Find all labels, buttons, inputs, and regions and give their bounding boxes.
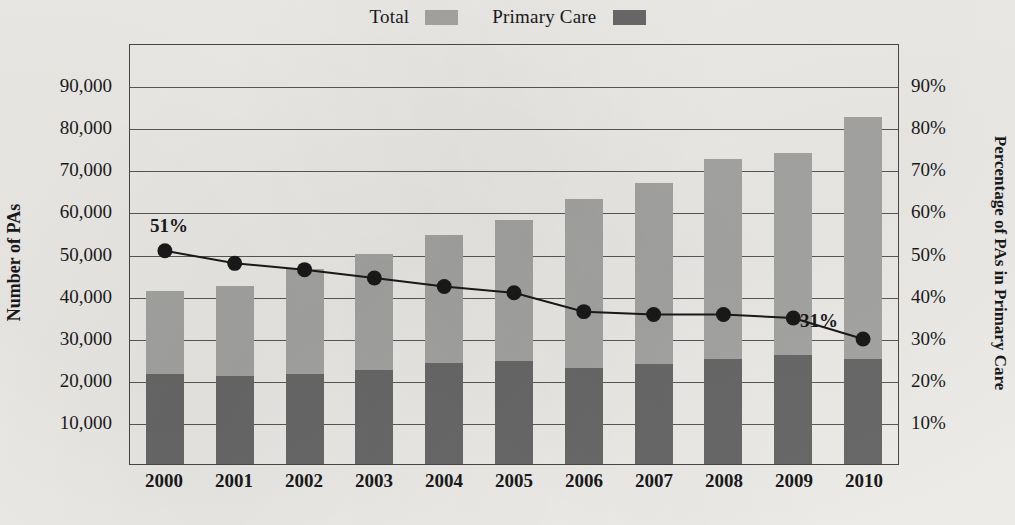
x-tick-label: 2007 bbox=[635, 470, 673, 492]
x-axis-tick-labels: 2000200120022003200420052006200720082009… bbox=[129, 470, 899, 492]
left-tick-label: 70,000 bbox=[60, 160, 112, 180]
legend-label-primary-care: Primary Care bbox=[492, 6, 596, 28]
left-tick-label: 10,000 bbox=[60, 413, 112, 433]
right-tick-label: 70% bbox=[911, 160, 946, 180]
data-point-label: 51% bbox=[150, 215, 188, 237]
right-axis-tick-labels: 90%80%70%60%50%40%30%20%10% bbox=[903, 44, 973, 465]
legend-swatch-primary-care-icon bbox=[613, 10, 646, 25]
legend-item-total: Total bbox=[369, 6, 458, 28]
right-tick-label: 50% bbox=[911, 245, 946, 265]
left-axis-title-text: Number of PAs bbox=[5, 204, 26, 321]
x-tick-label: 2002 bbox=[285, 470, 323, 492]
data-point-label: 31% bbox=[800, 310, 838, 332]
right-tick-label: 60% bbox=[911, 202, 946, 222]
x-tick-label: 2001 bbox=[215, 470, 253, 492]
right-axis-title: Percentage of PAs in Primary Care bbox=[983, 10, 1015, 515]
left-tick-label: 80,000 bbox=[60, 118, 112, 138]
right-tick-label: 40% bbox=[911, 287, 946, 307]
line-data-point[interactable] bbox=[227, 256, 242, 271]
x-tick-label: 2009 bbox=[775, 470, 813, 492]
x-tick-label: 2006 bbox=[565, 470, 603, 492]
left-tick-label: 20,000 bbox=[60, 371, 112, 391]
left-tick-label: 60,000 bbox=[60, 202, 112, 222]
line-data-point[interactable] bbox=[856, 331, 871, 346]
line-data-point[interactable] bbox=[157, 243, 172, 258]
line-data-point[interactable] bbox=[507, 285, 522, 300]
left-tick-label: 40,000 bbox=[60, 287, 112, 307]
right-axis-title-text: Percentage of PAs in Primary Care bbox=[990, 135, 1010, 389]
line-series-layer bbox=[130, 45, 898, 465]
legend-label-total: Total bbox=[369, 6, 409, 28]
line-data-point[interactable] bbox=[437, 279, 452, 294]
x-tick-label: 2003 bbox=[355, 470, 393, 492]
line-data-point[interactable] bbox=[297, 262, 312, 277]
x-tick-label: 2000 bbox=[145, 470, 183, 492]
right-tick-label: 80% bbox=[911, 118, 946, 138]
right-tick-label: 20% bbox=[911, 371, 946, 391]
line-data-point[interactable] bbox=[646, 307, 661, 322]
line-data-point[interactable] bbox=[576, 304, 591, 319]
x-tick-label: 2008 bbox=[705, 470, 743, 492]
left-tick-label: 50,000 bbox=[60, 245, 112, 265]
line-data-point[interactable] bbox=[786, 310, 801, 325]
plot-area: 51%31% bbox=[129, 44, 899, 465]
legend-item-primary-care: Primary Care bbox=[492, 6, 645, 28]
line-data-point[interactable] bbox=[367, 271, 382, 286]
legend-swatch-total-icon bbox=[425, 10, 458, 25]
x-tick-label: 2005 bbox=[495, 470, 533, 492]
line-data-point[interactable] bbox=[716, 307, 731, 322]
left-tick-label: 30,000 bbox=[60, 329, 112, 349]
right-tick-label: 10% bbox=[911, 413, 946, 433]
left-axis-tick-labels: 90,00080,00070,00060,00050,00040,00030,0… bbox=[30, 44, 120, 465]
x-tick-label: 2010 bbox=[845, 470, 883, 492]
chart-legend: Total Primary Care bbox=[0, 6, 1015, 28]
x-tick-label: 2004 bbox=[425, 470, 463, 492]
right-tick-label: 30% bbox=[911, 329, 946, 349]
left-tick-label: 90,000 bbox=[60, 76, 112, 96]
right-tick-label: 90% bbox=[911, 76, 946, 96]
